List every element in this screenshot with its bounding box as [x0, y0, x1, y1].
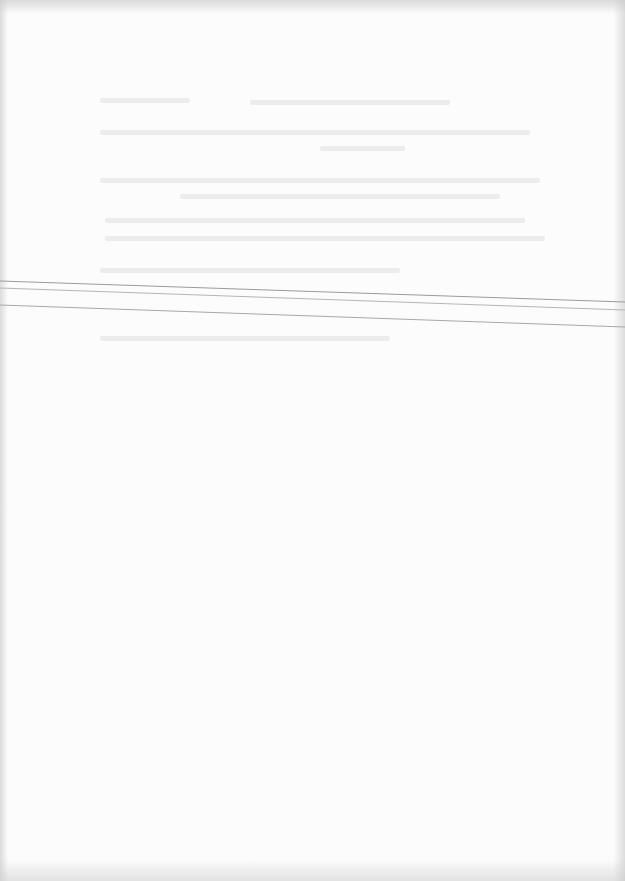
scan-line: [0, 305, 625, 327]
scanned-page: [0, 0, 625, 881]
scan-line-artifacts: [0, 0, 625, 881]
